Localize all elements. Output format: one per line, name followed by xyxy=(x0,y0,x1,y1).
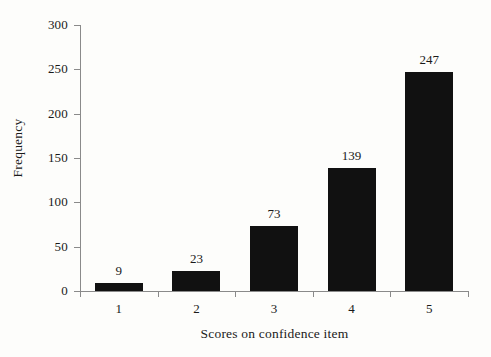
bar xyxy=(405,72,453,291)
bar-value-label: 73 xyxy=(249,207,299,221)
x-tick-label: 1 xyxy=(99,301,139,316)
bar xyxy=(172,271,220,291)
x-tick-mark xyxy=(80,291,81,297)
x-tick-mark xyxy=(235,291,236,297)
y-tick-label: 50 xyxy=(22,240,68,253)
bar-value-label: 9 xyxy=(94,264,144,278)
y-tick-label: 200 xyxy=(22,107,68,120)
x-axis-title: Scores on confidence item xyxy=(80,326,469,342)
x-tick-label: 2 xyxy=(176,301,216,316)
y-axis-title: Frequency xyxy=(10,83,26,213)
x-tick-label: 3 xyxy=(254,301,294,316)
y-tick-label: 150 xyxy=(22,151,68,164)
bar xyxy=(250,226,298,291)
x-tick-label: 5 xyxy=(409,301,449,316)
bar-chart-figure: 050100150200250300 12345 Frequency Score… xyxy=(0,0,491,357)
x-tick-mark xyxy=(313,291,314,297)
bar-value-label: 139 xyxy=(327,149,377,163)
y-tick-label: 100 xyxy=(22,195,68,208)
x-tick-mark xyxy=(390,291,391,297)
x-tick-mark xyxy=(158,291,159,297)
bar-value-label: 23 xyxy=(171,252,221,266)
y-tick-label: 300 xyxy=(22,18,68,31)
x-tick-label: 4 xyxy=(332,301,372,316)
x-tick-mark xyxy=(468,291,469,297)
bar xyxy=(95,283,143,291)
bar xyxy=(328,168,376,291)
y-tick-label: 0 xyxy=(22,284,68,297)
y-tick-label: 250 xyxy=(22,62,68,75)
x-axis-line xyxy=(80,291,469,292)
bar-value-label: 247 xyxy=(404,53,454,67)
